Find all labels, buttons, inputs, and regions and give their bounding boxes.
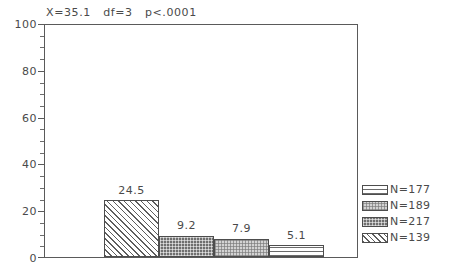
legend-swatch-icon [362,233,388,243]
legend-item-label: N=139 [390,231,430,244]
legend-item-label: N=217 [390,215,430,228]
legend-item[interactable]: N=139 [362,230,448,245]
bar-chart: X=35.1 df=3 p<.0001 100 80 60 40 20 0 [0,0,449,278]
y-axis-tick-label: 100 [15,18,38,31]
bar-value-label: 7.9 [232,222,251,235]
bar-1[interactable] [104,200,159,257]
legend-item[interactable]: N=189 [362,198,448,213]
legend-item-label: N=189 [390,199,430,212]
bar-value-label: 5.1 [287,229,306,242]
y-axis-tick-label: 40 [22,158,37,171]
legend-swatch-icon [362,185,388,195]
legend-item-label: N=177 [390,183,430,196]
bar-value-label: 9.2 [177,219,196,232]
y-axis-tick-label: 60 [22,111,37,124]
legend-swatch-icon [362,217,388,227]
legend-item[interactable]: N=217 [362,214,448,229]
y-axis-tick-label: 20 [22,205,37,218]
y-axis-tick-label: 0 [30,252,38,265]
bar-4[interactable] [269,245,324,257]
bar-2[interactable] [159,236,214,257]
y-axis: 100 80 60 40 20 0 [0,24,44,258]
bar-value-label: 24.5 [118,184,145,197]
bar-3[interactable] [214,239,269,257]
y-axis-tick-label: 80 [22,64,37,77]
legend-swatch-icon [362,201,388,211]
bars-layer: 24.5 9.2 7.9 5.1 [45,25,357,257]
statistics-annotation: X=35.1 df=3 p<.0001 [46,6,197,19]
legend-item[interactable]: N=177 [362,182,448,197]
legend: N=177 N=189 N=217 N=139 [362,182,448,246]
